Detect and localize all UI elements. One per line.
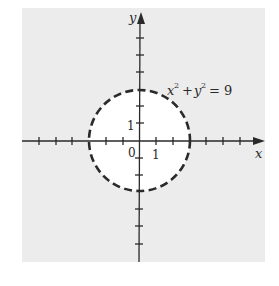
y-axis-label: y xyxy=(128,10,137,25)
svg-text:+: + xyxy=(182,83,193,98)
svg-text:2: 2 xyxy=(201,81,206,90)
x-unit-label: 1 xyxy=(152,148,160,162)
y-unit-label: 1 xyxy=(127,119,135,133)
circle-region-diagram: y x 1 0 1 x 2 + y 2 = 9 xyxy=(0,0,279,286)
svg-text:2: 2 xyxy=(174,81,179,90)
diagram-canvas: y x 1 0 1 x 2 + y 2 = 9 xyxy=(0,0,279,286)
x-axis-label: x xyxy=(255,146,263,161)
svg-text:= 9: = 9 xyxy=(209,83,232,98)
origin-label: 0 xyxy=(128,146,136,160)
